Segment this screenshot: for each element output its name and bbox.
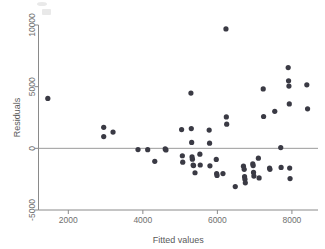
data-point xyxy=(305,106,310,111)
data-point xyxy=(197,152,202,157)
data-point xyxy=(189,126,194,131)
scatter-plot-figure: -500005000100002000400060008000Fitted va… xyxy=(0,0,325,249)
data-point xyxy=(251,163,256,168)
axis-layer xyxy=(35,25,319,214)
data-point xyxy=(101,134,106,139)
data-point xyxy=(261,86,266,91)
data-point xyxy=(214,157,219,162)
data-point xyxy=(192,170,197,175)
data-point xyxy=(272,109,277,114)
data-point xyxy=(279,165,284,170)
data-point xyxy=(256,156,261,161)
data-point xyxy=(233,184,238,189)
data-point xyxy=(304,82,309,87)
data-point xyxy=(189,140,194,145)
data-point xyxy=(261,114,266,119)
data-point xyxy=(224,114,229,119)
data-point xyxy=(286,65,291,70)
data-point-layer xyxy=(45,26,310,189)
data-point xyxy=(45,96,50,101)
data-point xyxy=(188,90,193,95)
data-point xyxy=(135,147,140,152)
data-point xyxy=(110,129,115,134)
y-axis-tick-label: 10000 xyxy=(27,13,37,37)
data-point xyxy=(207,127,212,132)
data-point xyxy=(207,163,212,168)
data-point xyxy=(214,173,219,178)
data-point xyxy=(190,157,195,162)
data-point xyxy=(223,26,228,31)
x-axis-tick-label: 6000 xyxy=(208,215,227,225)
data-point xyxy=(257,175,262,180)
data-point xyxy=(191,163,196,168)
x-axis-tick-label: 8000 xyxy=(282,215,301,225)
y-axis-title: Residuals xyxy=(12,97,22,137)
background-artifacts xyxy=(37,2,51,15)
data-point xyxy=(251,173,256,178)
data-point xyxy=(180,153,185,158)
data-point xyxy=(224,122,229,127)
data-point xyxy=(287,101,292,106)
data-point xyxy=(242,167,247,172)
data-point xyxy=(198,162,203,167)
data-point xyxy=(286,78,291,83)
y-axis-tick-label: -5000 xyxy=(27,199,37,221)
data-point xyxy=(163,147,168,152)
data-point xyxy=(287,176,292,181)
data-point xyxy=(278,145,283,150)
x-axis-tick-label: 4000 xyxy=(133,215,152,225)
data-point xyxy=(179,127,184,132)
data-point xyxy=(207,141,212,146)
data-point xyxy=(220,171,225,176)
data-point xyxy=(145,147,150,152)
y-axis-tick-label: 0 xyxy=(27,146,37,151)
chart-canvas: -500005000100002000400060008000Fitted va… xyxy=(0,0,325,249)
data-point xyxy=(287,165,292,170)
data-point xyxy=(101,125,106,130)
data-point xyxy=(243,180,248,185)
x-axis-title: Fitted values xyxy=(153,235,205,245)
data-point xyxy=(286,83,291,88)
data-point xyxy=(152,159,157,164)
data-point xyxy=(267,167,272,172)
y-axis-tick-label: 5000 xyxy=(27,77,37,96)
data-point xyxy=(180,160,185,165)
x-axis-tick-label: 2000 xyxy=(59,215,78,225)
